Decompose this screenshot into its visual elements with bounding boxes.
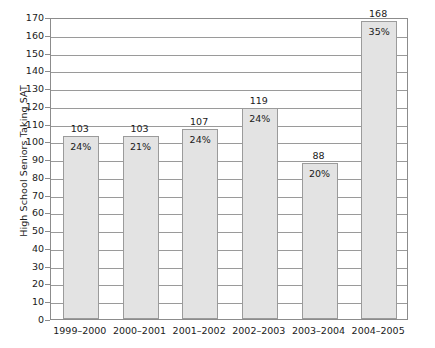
gridline	[51, 108, 407, 109]
x-axis-tick-label: 2004–2005	[340, 325, 416, 336]
bar-value-label: 119	[229, 95, 289, 106]
bar-chart: High School Seniors Taking SAT 010203040…	[0, 0, 435, 348]
gridline	[51, 232, 407, 233]
gridline	[51, 197, 407, 198]
bar: 24%	[182, 129, 218, 319]
y-axis-tick-label: 90	[4, 155, 44, 165]
gridline	[51, 143, 407, 144]
y-axis-tick-mark	[45, 320, 50, 321]
gridline	[51, 214, 407, 215]
bar-percent-label: 20%	[303, 168, 337, 179]
y-axis-tick-label: 130	[4, 84, 44, 94]
y-axis-tick-label: 140	[4, 66, 44, 76]
bar-value-label: 88	[289, 150, 349, 161]
bar-percent-label: 24%	[64, 141, 98, 152]
bar: 21%	[123, 136, 159, 319]
y-axis-tick-label: 10	[4, 297, 44, 307]
gridline	[51, 90, 407, 91]
bar-value-label: 103	[50, 123, 110, 134]
y-axis-tick-label: 40	[4, 244, 44, 254]
y-axis-tick-label: 110	[4, 120, 44, 130]
y-axis-tick-label: 20	[4, 279, 44, 289]
y-axis-tick-label: 80	[4, 173, 44, 183]
y-axis-tick-label: 60	[4, 208, 44, 218]
bar-percent-label: 24%	[243, 113, 277, 124]
gridline	[51, 268, 407, 269]
bar: 24%	[63, 136, 99, 319]
bar: 35%	[361, 21, 397, 319]
y-axis-tick-label: 150	[4, 49, 44, 59]
y-axis-tick-label: 50	[4, 226, 44, 236]
y-axis-tick-label: 0	[4, 315, 44, 325]
bar-percent-label: 21%	[124, 141, 158, 152]
gridline	[51, 161, 407, 162]
y-axis-tick-label: 120	[4, 102, 44, 112]
bar-value-label: 107	[169, 116, 229, 127]
y-axis-tick-label: 170	[4, 13, 44, 23]
y-axis-tick-label: 70	[4, 191, 44, 201]
bar: 24%	[242, 108, 278, 319]
y-axis-tick-label: 30	[4, 262, 44, 272]
gridline	[51, 37, 407, 38]
bar-value-label: 103	[110, 123, 170, 134]
gridline	[51, 72, 407, 73]
plot-area: 24%21%24%24%20%35%	[50, 18, 408, 320]
gridline	[51, 303, 407, 304]
gridline	[51, 55, 407, 56]
y-axis-tick-label: 160	[4, 31, 44, 41]
y-axis-tick-label: 100	[4, 137, 44, 147]
gridline	[51, 179, 407, 180]
bar-percent-label: 35%	[362, 26, 396, 37]
bar-value-label: 168	[348, 8, 408, 19]
bar-percent-label: 24%	[183, 134, 217, 145]
bar: 20%	[302, 163, 338, 319]
gridline	[51, 285, 407, 286]
gridline	[51, 250, 407, 251]
